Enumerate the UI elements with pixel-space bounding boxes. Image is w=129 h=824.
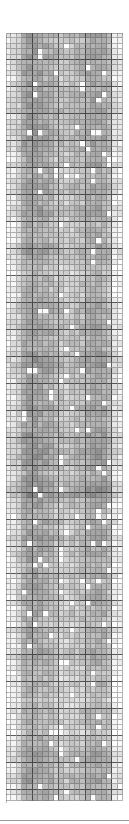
heatmap-canvas (0, 0, 129, 824)
bottom-separator (0, 820, 129, 821)
heatmap-cell (118, 795, 123, 800)
heatmap-grid (6, 33, 123, 801)
